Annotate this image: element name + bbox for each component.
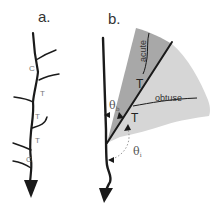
- flow-arrow-icon: [99, 188, 113, 203]
- angle-arrow-icon: [108, 157, 114, 163]
- junction-label-t: T: [35, 112, 40, 121]
- panel-b-main-channel: [99, 38, 113, 203]
- flow-arrow-icon: [24, 180, 38, 198]
- channel-network-diagram: a. C T T T C b. acute obtuse T T θb θi: [0, 0, 219, 205]
- tributary-label-t: T: [131, 111, 139, 125]
- tributary-label-t: T: [136, 77, 144, 91]
- panel-a-label: a.: [38, 8, 51, 25]
- theta-i-label: θi: [133, 145, 142, 158]
- junction-label-t: T: [35, 136, 40, 145]
- junction-label-c: C: [29, 64, 35, 73]
- acute-label: acute: [138, 40, 148, 62]
- junction-label-t: T: [40, 89, 45, 98]
- junction-label-c: C: [26, 155, 32, 164]
- panel-b-label: b.: [108, 10, 121, 27]
- panel-a-tributaries: [13, 50, 59, 168]
- obtuse-label: obtuse: [155, 93, 182, 103]
